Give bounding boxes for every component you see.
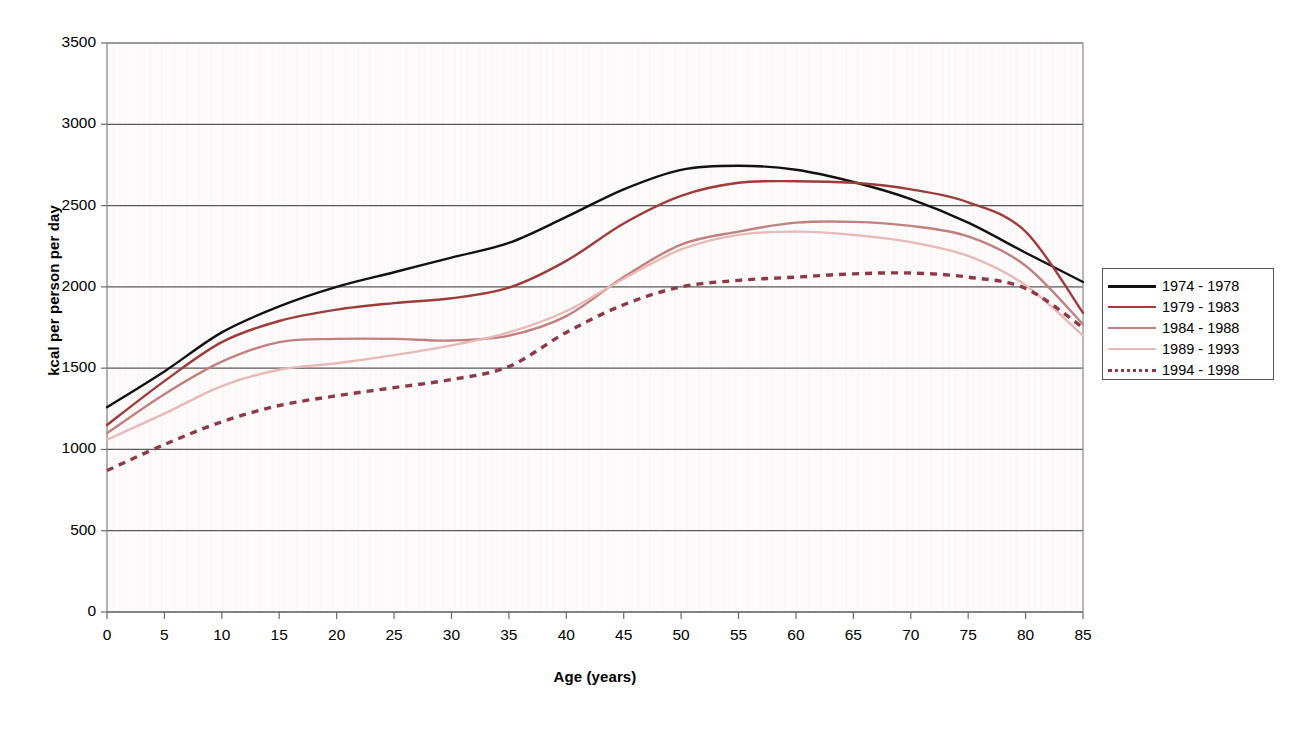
legend-swatch-icon <box>1108 280 1156 292</box>
legend: 1974 - 19781979 - 19831984 - 19881989 - … <box>1102 268 1274 380</box>
legend-swatch-icon <box>1108 364 1156 376</box>
legend-item-4[interactable]: 1989 - 1993 <box>1103 338 1273 360</box>
legend-item-1[interactable]: 1974 - 1978 <box>1103 275 1273 297</box>
legend-item-3[interactable]: 1984 - 1988 <box>1103 317 1273 339</box>
legend-label: 1989 - 1993 <box>1162 341 1239 357</box>
legend-swatch-icon <box>1108 343 1156 355</box>
legend-label: 1984 - 1988 <box>1162 320 1239 336</box>
legend-label: 1974 - 1978 <box>1162 278 1239 294</box>
legend-label: 1979 - 1983 <box>1162 299 1239 315</box>
legend-item-5[interactable]: 1994 - 1998 <box>1103 359 1273 381</box>
legend-label: 1994 - 1998 <box>1162 362 1239 378</box>
line-chart: kcal per person per day Age (years) 0500… <box>0 0 1289 740</box>
legend-swatch-icon <box>1108 322 1156 334</box>
legend-item-2[interactable]: 1979 - 1983 <box>1103 296 1273 318</box>
plot-area <box>0 0 1289 740</box>
legend-swatch-icon <box>1108 301 1156 313</box>
